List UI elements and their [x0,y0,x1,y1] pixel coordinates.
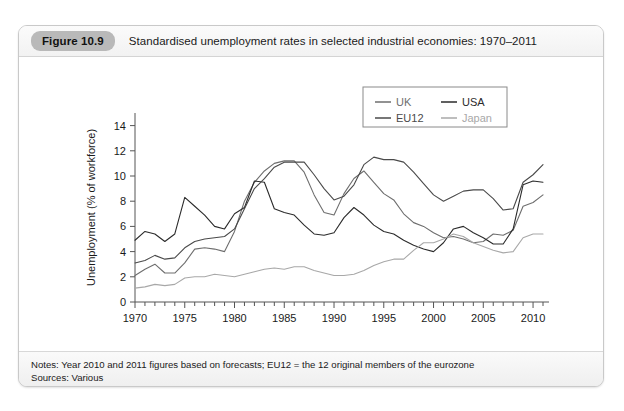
series-line-eu12 [135,157,543,263]
x-tick-label: 1970 [123,312,147,324]
y-tick-label: 4 [120,246,126,258]
legend-label-usa: USA [462,96,485,108]
figure-card: Figure 10.9 Standardised unemployment ra… [18,25,604,387]
chart-area: 0246810121419701975198019851990199520002… [19,57,603,353]
y-tick-label: 8 [120,195,126,207]
y-tick-label: 10 [114,170,126,182]
x-tick-label: 2000 [421,312,445,324]
figure-header: Figure 10.9 Standardised unemployment ra… [19,26,603,57]
x-tick-label: 1980 [222,312,246,324]
x-tick-label: 1985 [272,312,296,324]
footer-notes: Notes: Year 2010 and 2011 figures based … [31,358,603,371]
unemployment-line-chart: 0246810121419701975198019851990199520002… [19,57,604,353]
y-tick-label: 12 [114,145,126,157]
figure-title: Standardised unemployment rates in selec… [129,35,537,47]
x-tick-label: 1975 [173,312,197,324]
figure-footer: Notes: Year 2010 and 2011 figures based … [19,351,603,386]
legend-label-eu12: EU12 [396,112,424,124]
y-tick-label: 0 [120,296,126,308]
footer-sources: Sources: Various [31,371,603,384]
legend-label-uk: UK [396,96,412,108]
x-tick-label: 1995 [372,312,396,324]
series-line-uk [135,161,543,276]
x-tick-label: 1990 [322,312,346,324]
y-tick-label: 14 [114,120,126,132]
x-tick-label: 2005 [471,312,495,324]
y-tick-label: 2 [120,271,126,283]
figure-page: Figure 10.9 Standardised unemployment ra… [0,0,624,411]
y-tick-label: 6 [120,220,126,232]
figure-number-badge: Figure 10.9 [31,31,115,51]
legend-label-japan: Japan [462,112,492,124]
x-tick-label: 2010 [521,312,545,324]
y-axis-title: Unemployment (% of workforce) [85,129,97,286]
